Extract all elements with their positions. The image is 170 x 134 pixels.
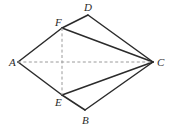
segment-group — [18, 15, 153, 110]
segment-a-f — [18, 28, 62, 62]
vertex-label-a: A — [8, 56, 16, 68]
segment-f-d — [62, 15, 88, 28]
vertex-label-b: B — [82, 114, 89, 126]
segment-e-c — [62, 62, 153, 95]
vertex-label-c: C — [157, 56, 165, 68]
segment-d-c — [88, 15, 153, 62]
label-group: AFDCBE — [8, 1, 165, 126]
segment-a-e — [18, 62, 62, 95]
segment-b-c — [85, 62, 153, 110]
geometry-diagram: AFDCBE — [0, 0, 170, 134]
diagram-canvas: AFDCBE — [0, 0, 170, 134]
vertex-label-d: D — [83, 1, 92, 13]
segment-f-c — [62, 28, 153, 62]
vertex-label-f: F — [54, 16, 62, 28]
vertex-label-e: E — [54, 96, 62, 108]
segment-e-b — [62, 95, 85, 110]
